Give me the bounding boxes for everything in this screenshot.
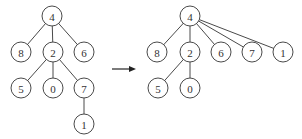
tree-node-after-2: 2 [180, 42, 200, 62]
tree-node-before-0: 0 [43, 78, 63, 98]
tree-diagram: 4826507148267150 [0, 0, 302, 139]
tree-node-before-2: 2 [43, 42, 63, 62]
node-label: 1 [280, 47, 286, 59]
tree-node-after-5: 5 [148, 78, 168, 98]
tree-node-after-0: 0 [180, 78, 200, 98]
edges-layer [21, 16, 283, 124]
node-label: 7 [81, 83, 87, 95]
tree-node-after-6: 6 [211, 42, 231, 62]
tree-node-after-8: 8 [147, 42, 167, 62]
node-label: 4 [187, 11, 193, 23]
node-label: 7 [249, 47, 255, 59]
node-label: 5 [18, 83, 24, 95]
node-label: 5 [155, 83, 161, 95]
tree-node-after-1: 1 [273, 42, 293, 62]
node-label: 4 [49, 11, 55, 23]
tree-node-before-5: 5 [11, 78, 31, 98]
node-label: 2 [187, 47, 193, 59]
tree-node-before-8: 8 [11, 42, 31, 62]
node-label: 0 [50, 83, 56, 95]
node-label: 6 [81, 47, 87, 59]
node-label: 6 [218, 47, 224, 59]
tree-node-after-7: 7 [242, 42, 262, 62]
node-label: 2 [50, 47, 56, 59]
node-label: 8 [18, 47, 24, 59]
tree-node-before-1: 1 [74, 114, 94, 134]
node-label: 8 [154, 47, 160, 59]
transform-arrow [112, 66, 136, 72]
node-label: 1 [81, 119, 87, 131]
edge-after-m4-m1 [190, 16, 283, 52]
node-label: 0 [187, 83, 193, 95]
tree-node-before-4: 4 [42, 6, 62, 26]
tree-node-before-6: 6 [74, 42, 94, 62]
tree-node-before-7: 7 [74, 78, 94, 98]
arrow-right-icon [129, 66, 136, 72]
tree-node-after-4: 4 [180, 6, 200, 26]
